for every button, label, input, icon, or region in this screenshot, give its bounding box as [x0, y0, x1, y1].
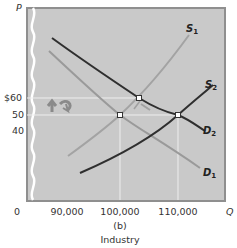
equilibrium-point-d2-s2	[176, 113, 181, 118]
origin-label: 0	[14, 206, 20, 217]
y-tick-40: 40	[12, 125, 24, 136]
industry-supply-demand-chart: S1 S2 D2 D1 P Q 0 $60 50 40 90,000 100,0…	[0, 0, 237, 248]
x-axis-label: Q	[226, 206, 234, 217]
y-tick-60: $60	[4, 92, 22, 103]
chart-caption: Industry	[100, 234, 139, 245]
equilibrium-point-d2-s1	[137, 96, 142, 101]
x-tick-110000: 110,000	[158, 206, 197, 217]
x-tick-100000: 100,000	[100, 206, 139, 217]
equilibrium-point-d1-s1	[118, 113, 123, 118]
y-axis-label: P	[16, 2, 22, 13]
panel-label: (b)	[113, 220, 126, 231]
x-tick-90000: 90,000	[50, 206, 83, 217]
y-tick-50: 50	[12, 109, 24, 120]
